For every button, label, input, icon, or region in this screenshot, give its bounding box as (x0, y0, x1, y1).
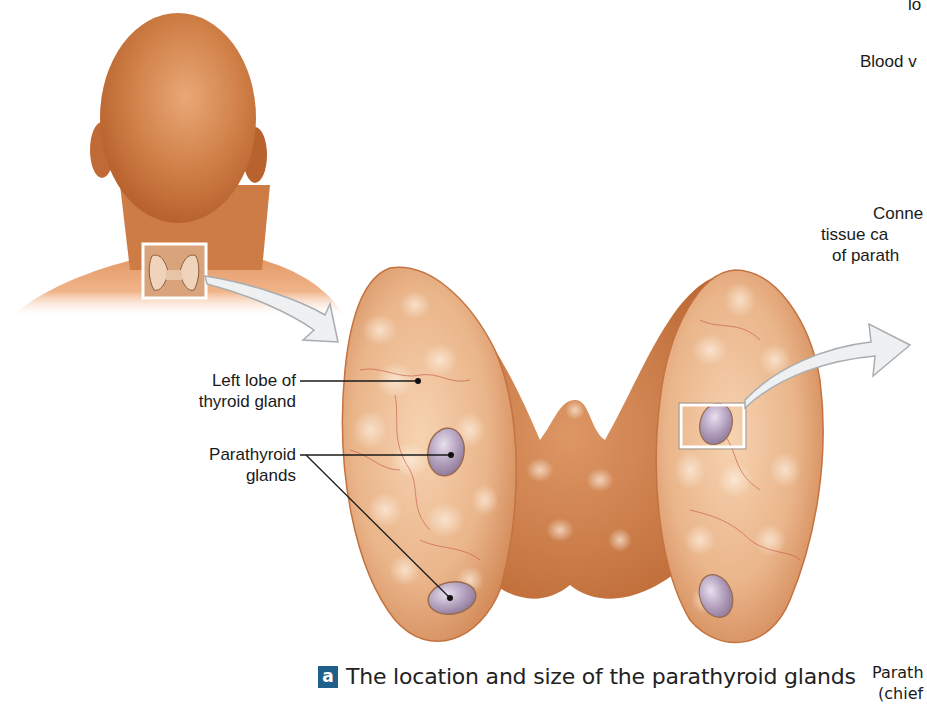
label-parathyroid-glands: Parathyroid glands (160, 444, 296, 486)
label-connective-line2: tissue ca (780, 224, 927, 245)
leader-dot-parathyroid-lower (447, 595, 453, 601)
caption-text: The location and size of the parathyroid… (346, 664, 856, 689)
label-connective-tissue-partial: Conne tissue ca of parath (780, 203, 927, 266)
label-parathyroid-line1: Parathyroid (160, 444, 296, 465)
human-back-figure (10, 13, 345, 318)
leader-dot-left-lobe (415, 378, 421, 384)
label-connective-line1: Conne (780, 203, 927, 224)
leader-dot-parathyroid-upper (448, 452, 454, 458)
label-left-lobe: Left lobe of thyroid gland (160, 370, 296, 412)
label-parathyroid-line2: glands (160, 465, 296, 486)
label-left-lobe-line2: thyroid gland (160, 391, 296, 412)
label-blood-vessels-partial: Blood v (860, 51, 917, 72)
label-connective-line3: of parath (780, 245, 927, 266)
label-bottom-line1: Parath (872, 662, 924, 683)
label-left-lobe-line1: Left lobe of (160, 370, 296, 391)
label-bottom-partial: Parath (chief (872, 662, 924, 704)
caption-badge: a (318, 666, 338, 688)
figure-caption: aThe location and size of the parathyroi… (318, 664, 856, 690)
label-top-partial: lo (908, 0, 921, 15)
label-bottom-line2: (chief (878, 683, 924, 704)
